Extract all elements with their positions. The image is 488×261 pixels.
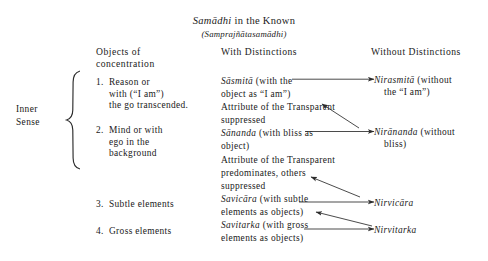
line-text: predominates, others xyxy=(221,168,306,178)
result-item: Nirvicāra xyxy=(374,198,414,210)
list-item-number: 1. xyxy=(96,77,108,89)
middle-column-line: Attribute of the Transparent xyxy=(221,154,381,167)
diagram-canvas: Samādhi in the Known (Samprajñātasamādhi… xyxy=(0,0,488,261)
sanskrit-term: Nirasmitā xyxy=(374,75,415,85)
result-line2: the “I am”) xyxy=(374,87,452,99)
sanskrit-term: Sānanda xyxy=(221,128,256,138)
result-line2: bliss) xyxy=(374,139,455,151)
middle-column-line: predominates, others xyxy=(221,167,381,180)
line-text: object as “I am”) xyxy=(221,89,291,99)
column-header-without-distinctions: Without Distinctions xyxy=(371,46,461,58)
list-item: 1. Reason or with (“I am”) the go transc… xyxy=(96,77,188,112)
middle-column-line: Sānanda (with bliss as xyxy=(221,127,381,140)
line-text: Attribute of the Transparent xyxy=(221,102,335,112)
title-remainder: in the Known xyxy=(232,15,296,26)
list-item-number: 4. xyxy=(96,226,108,238)
list-item: 2. Mind or with ego in the background xyxy=(96,125,163,160)
page-title: Samādhi in the Known xyxy=(0,14,488,27)
list-item-line: ego in the xyxy=(109,137,163,149)
sanskrit-term: Savitarka xyxy=(221,220,260,230)
sanskrit-term: Nirvitarka xyxy=(374,225,417,235)
side-label-inner-sense: Inner Sense xyxy=(16,103,40,128)
middle-column-line: elements as objects) xyxy=(221,206,381,219)
column-header-objects-line2: concentration xyxy=(96,58,155,70)
middle-column-line: object as “I am”) xyxy=(221,88,381,101)
result-item: Nirānanda (without bliss) xyxy=(374,127,455,151)
list-item-line: the go transcended. xyxy=(109,100,188,112)
sanskrit-term: Savicāra xyxy=(221,194,257,204)
column-header-objects-line1: Objects of xyxy=(96,46,155,58)
page-subtitle: (Samprajñātasamādhi) xyxy=(0,29,488,40)
middle-column-line: Savicāra (with subtle xyxy=(221,193,381,206)
middle-column-line: elements as objects) xyxy=(221,232,381,245)
result-item: Nirvitarka xyxy=(374,225,417,237)
line-text: (with bliss as xyxy=(256,128,313,138)
middle-column-line: suppressed xyxy=(221,114,381,127)
column-header-objects: Objects of concentration xyxy=(96,46,155,71)
result-item: Nirasmitā (without the “I am”) xyxy=(374,75,452,99)
list-item-line: with (“I am”) xyxy=(109,89,188,101)
line-text: Attribute of the Transparent xyxy=(221,155,335,165)
sanskrit-term: Sāsmitā xyxy=(221,76,253,86)
title-sanskrit-term: Samādhi xyxy=(193,15,232,26)
middle-column: Sāsmitā (with the object as “I am”) Attr… xyxy=(221,75,381,245)
middle-column-line: Sāsmitā (with the xyxy=(221,75,381,88)
result-line1: Nirvitarka xyxy=(374,225,417,237)
middle-column-line: Attribute of the Transparent xyxy=(221,101,381,114)
list-item-line: Reason or xyxy=(109,77,188,89)
group-brace xyxy=(62,70,84,170)
line-text: suppressed xyxy=(221,115,266,125)
line-text: (without xyxy=(418,127,455,137)
line-text: suppressed xyxy=(221,181,266,191)
sanskrit-term: Nirānanda xyxy=(374,127,418,137)
result-line1: Nirasmitā (without xyxy=(374,75,452,87)
list-item-line: Subtle elements xyxy=(109,199,174,211)
line-text: object) xyxy=(221,141,249,151)
list-item-line: Mind or with xyxy=(109,125,163,137)
middle-column-line: object) xyxy=(221,140,381,153)
middle-column-line: Savitarka (with gross xyxy=(221,219,381,232)
sanskrit-term: Nirvicāra xyxy=(374,198,414,208)
side-label-line1: Inner xyxy=(16,103,40,116)
diagram-title-block: Samādhi in the Known (Samprajñātasamādhi… xyxy=(0,14,488,40)
list-item-number: 2. xyxy=(96,125,108,137)
line-text: (without xyxy=(415,75,452,85)
line-text: elements as objects) xyxy=(221,207,304,217)
middle-column-line: suppressed xyxy=(221,180,381,193)
line-text: (with subtle xyxy=(257,194,308,204)
list-item-line: background xyxy=(109,148,163,160)
column-header-with-distinctions: With Distinctions xyxy=(221,46,297,58)
result-line1: Nirvicāra xyxy=(374,198,414,210)
list-item-line: Gross elements xyxy=(109,226,171,238)
line-text: (with gross xyxy=(260,220,308,230)
side-label-line2: Sense xyxy=(16,116,40,129)
result-line1: Nirānanda (without xyxy=(374,127,455,139)
line-text: (with the xyxy=(253,76,292,86)
list-item: 4. Gross elements xyxy=(96,226,171,238)
list-item-number: 3. xyxy=(96,199,108,211)
list-item: 3. Subtle elements xyxy=(96,199,174,211)
line-text: elements as objects) xyxy=(221,233,304,243)
